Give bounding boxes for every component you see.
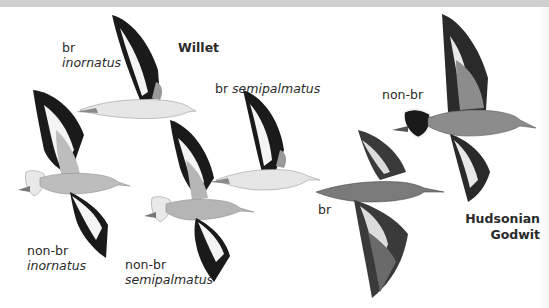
plumage-label: br: [215, 81, 228, 96]
label-willet-br-semipalmatus: br semipalmatus: [215, 81, 320, 96]
label-willet-br-inornatus: br inornatus: [62, 40, 121, 70]
label-willet-nonbr-semipalmatus: non-br semipalmatus: [125, 257, 213, 287]
plumage-label: br: [62, 40, 121, 55]
willet-br-semipalmatus-illustration: [210, 90, 320, 190]
plumage-label: non-br: [125, 257, 213, 272]
plumage-label: non-br: [27, 243, 86, 258]
species-name-line2: Godwit: [464, 227, 540, 243]
subspecies-label: semipalmatus: [125, 272, 213, 287]
godwit-br-illustration: [316, 130, 444, 298]
subspecies-label: inornatus: [62, 55, 121, 70]
subspecies-label: inornatus: [27, 258, 86, 273]
species-name-line1: Hudsonian: [464, 211, 540, 227]
plumage-label: br: [318, 202, 331, 217]
label-godwit-nonbr: non-br: [382, 87, 423, 102]
subspecies-label: semipalmatus: [232, 81, 320, 96]
species-name-hudsonian-godwit: Hudsonian Godwit: [464, 211, 540, 243]
label-willet-nonbr-inornatus: non-br inornatus: [27, 243, 86, 273]
godwit-nonbr-illustration: [392, 14, 536, 202]
plumage-label: non-br: [382, 87, 423, 102]
species-name-willet: Willet: [178, 40, 219, 56]
label-godwit-br: br: [318, 202, 331, 217]
